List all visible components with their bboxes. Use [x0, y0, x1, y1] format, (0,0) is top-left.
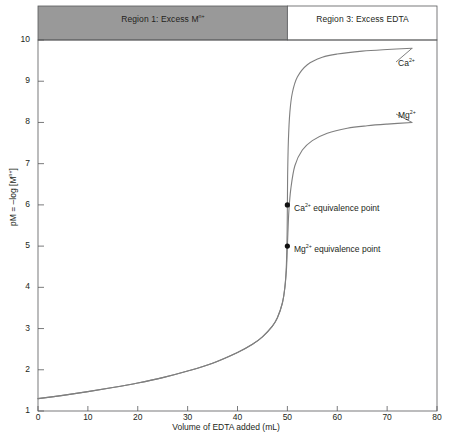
x-tick-label: 70 — [372, 412, 402, 422]
curve-mg2plus — [38, 122, 412, 398]
y-tick-label: 4 — [8, 281, 30, 291]
y-tick-label: 8 — [8, 116, 30, 126]
y-tick-label: 5 — [8, 240, 30, 250]
x-tick-label: 60 — [322, 412, 352, 422]
x-tick-label: 10 — [73, 412, 103, 422]
series-curves — [38, 48, 412, 398]
y-tick-label: 3 — [8, 323, 30, 333]
x-tick-label: 80 — [422, 412, 452, 422]
y-tick-label: 7 — [8, 158, 30, 168]
y-tick-label: 1 — [8, 405, 30, 415]
plot-frame — [38, 40, 437, 411]
y-tick-label: 6 — [8, 199, 30, 209]
plot-border — [38, 40, 437, 411]
titration-curve-figure: Region 1: Excess Mn+ Region 3: Excess ED… — [0, 0, 452, 437]
x-axis-title: Volume of EDTA added (mL) — [0, 422, 452, 432]
curve-ca2plus — [38, 48, 412, 398]
x-tick-label: 30 — [173, 412, 203, 422]
ca-equivalence-point-dot — [285, 202, 290, 207]
x-tick-label: 50 — [272, 412, 302, 422]
region-1-label: Region 1: Excess Mn+ — [38, 14, 288, 24]
y-tick-label: 2 — [8, 364, 30, 374]
plot-canvas — [0, 0, 452, 437]
axis-ticks — [38, 40, 437, 411]
x-tick-label: 40 — [223, 412, 253, 422]
x-tick-label: 20 — [123, 412, 153, 422]
series-label-mg: Mg2+ — [398, 110, 416, 120]
ca-equivalence-point-label: Ca2+ equivalence point — [294, 203, 379, 213]
y-tick-label: 9 — [8, 75, 30, 85]
mg-equivalence-point-dot — [285, 244, 290, 249]
series-label-ca: Ca2+ — [398, 58, 415, 68]
region-3-label: Region 3: Excess EDTA — [288, 14, 437, 24]
mg-equivalence-point-label: Mg2+ equivalence point — [294, 244, 380, 254]
y-tick-label: 10 — [8, 34, 30, 44]
